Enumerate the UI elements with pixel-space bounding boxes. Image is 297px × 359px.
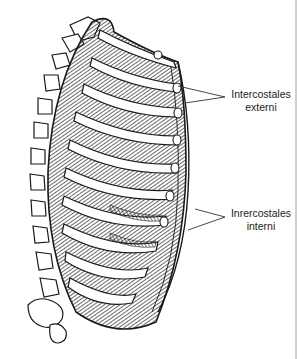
label-ext-line1: Intercostales (229, 88, 293, 101)
label-int-line2: interni (229, 220, 293, 233)
label-intercostales-interni: Inrercostales interni (229, 207, 293, 233)
label-intercostales-externi: Intercostales externi (229, 88, 293, 114)
leader-line-externi-upper (178, 86, 225, 97)
label-int-line1: Inrercostales (229, 207, 293, 220)
label-ext-line2: externi (229, 101, 293, 114)
leader-line-externi-lower (185, 97, 225, 103)
rib-cage-illustration (0, 0, 297, 359)
leader-line-interni-upper (195, 209, 225, 217)
leader-line-interni-lower (188, 217, 225, 230)
